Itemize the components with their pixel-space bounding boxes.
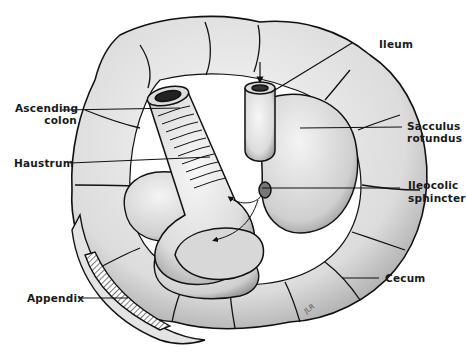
label-sacculus-line1: Sacculus — [407, 120, 461, 132]
label-haustrum: Haustrum — [14, 157, 74, 169]
label-ileocolic-line1: Ileocolic — [408, 179, 459, 191]
label-ileocolic-line2: sphincter — [408, 192, 466, 204]
label-appendix: Appendix — [27, 292, 84, 304]
label-ascending-colon-line1: Ascending — [15, 102, 77, 114]
label-ileum: Ileum — [379, 38, 413, 50]
label-ascending-colon-line2: colon — [15, 114, 77, 126]
label-sacculus-line2: rotundus — [407, 132, 462, 144]
label-cecum: Cecum — [385, 272, 425, 284]
